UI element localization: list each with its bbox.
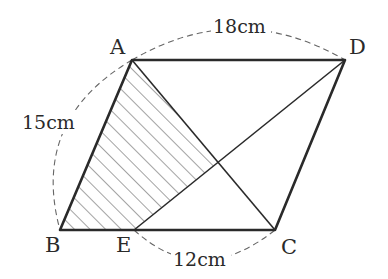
parallelogram-diagram: A D B E C 18cm 15cm 12cm xyxy=(0,0,388,279)
vertex-label-e: E xyxy=(116,233,131,257)
measure-ab: 15cm xyxy=(22,111,75,133)
measure-ad: 18cm xyxy=(213,15,266,37)
vertex-label-c: C xyxy=(281,235,297,259)
vertex-label-b: B xyxy=(45,233,60,257)
vertex-label-d: D xyxy=(349,35,366,59)
shaded-region xyxy=(50,50,250,240)
vertex-label-a: A xyxy=(109,35,126,59)
measure-ec: 12cm xyxy=(173,248,226,270)
